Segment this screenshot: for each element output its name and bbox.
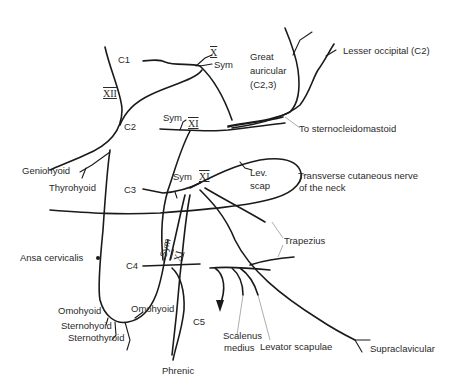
supraclavicular-fork	[355, 340, 370, 352]
label-great-auricular-3: (C2,3)	[250, 79, 276, 90]
label-phrenic: Phrenic	[162, 365, 194, 376]
label-xii: XII	[103, 88, 117, 99]
trapezius-leader-lower	[278, 245, 283, 257]
ansa-node	[96, 256, 100, 260]
trapezius-leader-upper	[272, 222, 283, 238]
label-supraclavicular: Supraclavicular	[370, 343, 435, 354]
lesser-occipital-nerve	[232, 44, 334, 128]
label-omohyoid-left: Omohyoid	[58, 305, 101, 316]
c1-root	[143, 60, 200, 66]
label-lev-scap-2: scap	[250, 180, 270, 191]
label-x: X	[210, 47, 218, 58]
label-c2: C2	[124, 121, 136, 132]
label-sym-3: Sym	[173, 171, 192, 182]
trapezius-lower-branch	[250, 257, 294, 265]
great-auricular-nerve	[228, 28, 299, 126]
c1-to-hypoglossal	[120, 70, 202, 125]
sternocleidomastoid-branch	[228, 117, 283, 127]
sternocleidomastoid-leader	[285, 117, 300, 128]
label-sternothyroid: Sternothyroid	[68, 332, 125, 343]
lesser-occipital-fork	[326, 50, 336, 56]
label-xi-1: XI	[188, 118, 199, 129]
label-transverse-2: of the neck	[299, 182, 346, 193]
label-c5: C5	[193, 316, 205, 327]
label-sternohyoid: Sternohyoid	[61, 320, 112, 331]
scalenus-leader	[237, 295, 243, 335]
label-xi-2: XI	[199, 171, 210, 182]
great-auricular-fork	[293, 32, 312, 55]
label-trapezius: Trapezius	[284, 235, 326, 246]
superior-root-ansa	[99, 150, 168, 323]
diagram-canvas: C1 X Sym XII C2 Sym XI Great auricular (…	[0, 0, 454, 389]
label-scalenus-1: Scalenus	[223, 330, 262, 341]
label-sym-2: Sym	[163, 112, 182, 123]
label-c1: C1	[118, 54, 130, 65]
supraclavicular-nerve	[200, 190, 355, 340]
label-thyrohyoid: Thyrohyoid	[49, 182, 96, 193]
sym-branch-3	[175, 192, 177, 198]
label-transverse-1: Transverse cutaneous nerve	[298, 170, 418, 181]
c5-branch	[215, 268, 224, 305]
label-great-auricular-2: auricular	[250, 65, 286, 76]
label-geniohyoid: Geniohyoid	[22, 165, 70, 176]
label-c3: C3	[124, 184, 136, 195]
label-lesser-occipital: Lesser occipital (C2)	[343, 45, 430, 56]
label-great-auricular-1: Great	[250, 51, 274, 62]
hypoglossal-nerve	[50, 47, 122, 170]
label-sym-1: Sym	[214, 59, 233, 70]
label-c4: C4	[126, 260, 138, 271]
label-sternocleidomastoid: To sternocleidomastoid	[299, 123, 396, 134]
scalenus-medius-branch	[232, 268, 243, 295]
cervical-plexus-diagram: C1 X Sym XII C2 Sym XI Great auricular (…	[0, 0, 454, 389]
c5-arrow-icon	[216, 300, 224, 312]
c1-descending	[200, 66, 232, 120]
c2-root	[160, 123, 285, 131]
label-omohyoid-right: Omohyoid	[131, 303, 174, 314]
label-ansa-cervicalis: Ansa cervicalis	[20, 252, 84, 263]
label-scalenus-2: medius	[224, 342, 255, 353]
c4-root	[143, 264, 200, 266]
sym-branch-1	[200, 64, 212, 66]
label-lev-scap-1: Lev.	[250, 167, 267, 178]
sternothyroid-branch	[125, 322, 130, 350]
label-levator-scapulae: Levator scapulae	[260, 341, 332, 352]
